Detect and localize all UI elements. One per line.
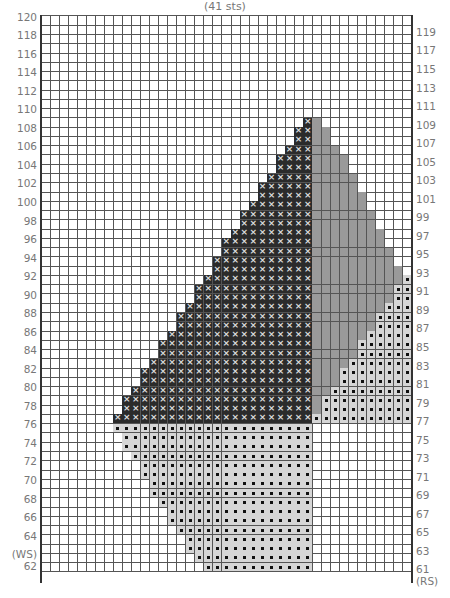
row-label-left: 116 bbox=[17, 48, 37, 60]
row-label-left: 82 bbox=[24, 363, 37, 375]
row-label-right: 115 bbox=[416, 63, 436, 75]
row-label-right: 69 bbox=[416, 489, 429, 501]
row-label-right: 105 bbox=[416, 156, 436, 168]
row-label-left: 80 bbox=[24, 381, 37, 393]
row-label-left: 84 bbox=[24, 344, 37, 356]
row-label-left: 104 bbox=[17, 159, 37, 171]
row-label-left: 98 bbox=[24, 215, 37, 227]
row-label-left: 88 bbox=[24, 307, 37, 319]
row-label-left: 112 bbox=[17, 85, 37, 97]
row-label-left: 100 bbox=[17, 196, 37, 208]
row-label-right: 75 bbox=[416, 434, 429, 446]
row-label-right: 91 bbox=[416, 285, 429, 297]
row-label-left: 92 bbox=[24, 270, 37, 282]
row-label-left: 96 bbox=[24, 233, 37, 245]
row-label-right: 87 bbox=[416, 322, 429, 334]
row-label-left: 68 bbox=[24, 493, 37, 505]
row-label-right: 83 bbox=[416, 360, 429, 372]
row-label-right: 95 bbox=[416, 248, 429, 260]
row-label-left: 110 bbox=[17, 103, 37, 115]
row-label-right: 63 bbox=[416, 545, 429, 557]
row-label-right: 119 bbox=[416, 26, 436, 38]
row-label-left: 106 bbox=[17, 140, 37, 152]
row-label-right: 107 bbox=[416, 137, 436, 149]
row-label-left: 74 bbox=[24, 437, 37, 449]
row-label-left: 102 bbox=[17, 177, 37, 189]
row-label-right: 97 bbox=[416, 230, 429, 242]
row-label-right: 85 bbox=[416, 341, 429, 353]
row-label-right: 89 bbox=[416, 304, 429, 316]
row-label-right: 71 bbox=[416, 471, 429, 483]
row-label-left: 86 bbox=[24, 326, 37, 338]
row-label-right: 109 bbox=[416, 119, 436, 131]
right-edge-rule bbox=[411, 15, 413, 583]
row-label-left: 120 bbox=[17, 11, 37, 23]
chart-title: (41 sts) bbox=[0, 0, 450, 14]
row-label-right: 113 bbox=[416, 82, 436, 94]
knitting-chart-grid bbox=[41, 16, 412, 572]
row-label-right: 61 (RS) bbox=[416, 563, 450, 587]
row-label-right: 67 bbox=[416, 508, 429, 520]
row-label-left: 66 bbox=[24, 511, 37, 523]
row-label-right: 65 bbox=[416, 526, 429, 538]
row-label-left: 72 bbox=[24, 455, 37, 467]
row-label-left: 114 bbox=[17, 66, 37, 78]
row-label-right: 101 bbox=[416, 193, 436, 205]
row-label-right: 111 bbox=[416, 100, 436, 112]
row-label-left: 64 bbox=[24, 530, 37, 542]
row-label-left: 90 bbox=[24, 289, 37, 301]
row-label-right: 93 bbox=[416, 267, 429, 279]
row-label-right: 117 bbox=[416, 44, 436, 56]
row-label-right: 77 bbox=[416, 415, 429, 427]
row-label-left: 76 bbox=[24, 418, 37, 430]
row-label-left: 108 bbox=[17, 122, 37, 134]
row-label-left: 78 bbox=[24, 400, 37, 412]
left-edge-rule bbox=[40, 15, 42, 583]
row-label-left: (WS) 62 bbox=[0, 548, 37, 572]
row-label-left: 94 bbox=[24, 252, 37, 264]
row-label-right: 103 bbox=[416, 174, 436, 186]
row-label-right: 99 bbox=[416, 211, 429, 223]
row-label-right: 73 bbox=[416, 452, 429, 464]
row-label-left: 118 bbox=[17, 29, 37, 41]
row-label-left: 70 bbox=[24, 474, 37, 486]
row-label-right: 81 bbox=[416, 378, 429, 390]
row-label-right: 79 bbox=[416, 397, 429, 409]
